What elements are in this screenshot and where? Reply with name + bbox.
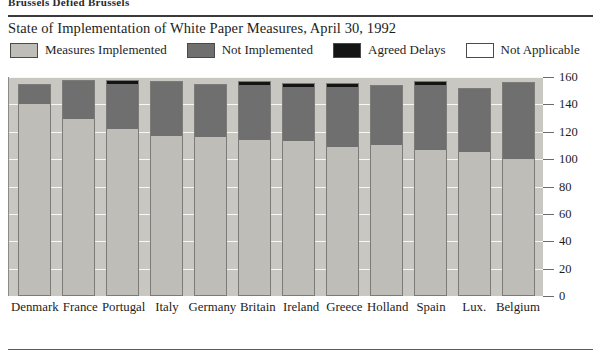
plot-area: [8, 77, 543, 296]
y-tick-label-20: 20: [559, 261, 572, 276]
bar-segment-not-implemented: [194, 84, 227, 137]
bar-belgium[interactable]: [502, 82, 535, 296]
bar-segment-measures-implemented: [370, 145, 403, 296]
bar-slot: [100, 77, 144, 296]
bar-segment-measures-implemented: [194, 137, 227, 296]
x-label-ireland: Ireland: [279, 300, 322, 322]
bar-segment-measures-implemented: [18, 104, 51, 296]
bar-segment-not-implemented: [370, 85, 403, 145]
page-title: State of Implementation of White Paper M…: [8, 20, 396, 37]
y-tick-label-40: 40: [559, 234, 572, 249]
x-label-holland: Holland: [366, 300, 409, 322]
bar-lux[interactable]: [458, 88, 491, 296]
bar-segment-not-implemented: [238, 85, 271, 140]
bar-ireland[interactable]: [282, 83, 315, 297]
x-axis-labels: DenmarkFrancePortugalItalyGermanyBritain…: [8, 300, 543, 322]
bar-slot: [320, 77, 364, 296]
x-label-italy: Italy: [145, 300, 188, 322]
y-tick-label-140: 140: [559, 97, 578, 112]
bar-denmark[interactable]: [18, 84, 51, 296]
bar-segment-measures-implemented: [502, 159, 535, 296]
bar-britain[interactable]: [238, 81, 271, 296]
bar-segment-not-implemented: [458, 88, 491, 152]
bar-greece[interactable]: [326, 83, 359, 297]
x-label-britain: Britain: [236, 300, 279, 322]
legend-item: Agreed Delays: [333, 42, 446, 58]
y-tick-label-60: 60: [559, 206, 572, 221]
y-tick-label-100: 100: [559, 152, 578, 167]
y-tick-100: [543, 159, 554, 160]
x-label-belgium: Belgium: [496, 300, 540, 322]
bar-segment-measures-implemented: [150, 136, 183, 296]
bar-italy[interactable]: [150, 81, 183, 296]
running-head: Brussels Defied Brussels: [8, 0, 308, 8]
bar-slot: [276, 77, 320, 296]
y-tick-label-0: 0: [559, 289, 565, 304]
bar-segment-not-implemented: [62, 80, 95, 120]
x-label-france: France: [59, 300, 102, 322]
x-label-portugal: Portugal: [102, 300, 145, 322]
bar-portugal[interactable]: [106, 80, 139, 296]
bar-slot: [452, 77, 496, 296]
bar-slot: [408, 77, 452, 296]
y-tick-20: [543, 269, 554, 270]
x-label-spain: Spain: [409, 300, 452, 322]
bar-segment-measures-implemented: [414, 150, 447, 296]
x-label-germany: Germany: [189, 300, 237, 322]
bar-segment-not-implemented: [502, 82, 535, 159]
chart-legend: Measures ImplementedNot ImplementedAgree…: [10, 40, 590, 60]
x-label-greece: Greece: [323, 300, 366, 322]
y-tick-label-80: 80: [559, 179, 572, 194]
bar-segment-not-implemented: [414, 85, 447, 149]
bar-germany[interactable]: [194, 84, 227, 296]
legend-swatch-not_implemented: [187, 43, 215, 58]
y-tick-80: [543, 187, 554, 188]
y-tick-120: [543, 132, 554, 133]
bar-france[interactable]: [62, 80, 95, 296]
y-tick-60: [543, 214, 554, 215]
chart-page: Brussels Defied Brussels State of Implem…: [0, 0, 601, 359]
bar-segment-measures-implemented: [62, 119, 95, 296]
bar-segment-measures-implemented: [106, 129, 139, 296]
bar-spain[interactable]: [414, 81, 447, 296]
bottom-rule: [8, 349, 593, 350]
legend-swatch-implemented: [10, 43, 38, 58]
bar-segment-not-implemented: [282, 87, 315, 142]
legend-label: Measures Implemented: [45, 42, 167, 58]
bar-slot: [364, 77, 408, 296]
legend-label: Agreed Delays: [368, 42, 446, 58]
y-tick-160: [543, 77, 554, 78]
bar-segment-measures-implemented: [282, 141, 315, 296]
bar-slot: [12, 77, 56, 296]
y-axis: 160140120100806040200: [543, 77, 601, 296]
bar-segment-not-implemented: [106, 84, 139, 129]
y-tick-40: [543, 241, 554, 242]
bar-segment-not-implemented: [150, 81, 183, 136]
legend-label: Not Applicable: [501, 42, 580, 58]
bar-segment-measures-implemented: [326, 147, 359, 296]
bar-segment-not-implemented: [326, 87, 359, 147]
gridline-0: [9, 296, 543, 297]
bar-slot: [188, 77, 232, 296]
top-rule: [8, 15, 593, 17]
legend-label: Not Implemented: [222, 42, 313, 58]
bar-slot: [144, 77, 188, 296]
bar-holland[interactable]: [370, 85, 403, 296]
y-tick-0: [543, 296, 554, 297]
bar-slot: [232, 77, 276, 296]
bar-segment-measures-implemented: [458, 152, 491, 296]
bar-segment-measures-implemented: [238, 140, 271, 296]
legend-item: Measures Implemented: [10, 42, 167, 58]
y-tick-label-160: 160: [559, 70, 578, 85]
bar-slot: [56, 77, 100, 296]
bar-group: [9, 77, 543, 296]
legend-item: Not Implemented: [187, 42, 313, 58]
x-label-lux: Lux.: [453, 300, 496, 322]
legend-item: Not Applicable: [466, 42, 580, 58]
legend-swatch-agreed_delays: [333, 43, 361, 58]
y-tick-140: [543, 104, 554, 105]
y-tick-label-120: 120: [559, 124, 578, 139]
bar-slot: [496, 77, 540, 296]
x-label-denmark: Denmark: [11, 300, 59, 322]
legend-swatch-not_applicable: [466, 43, 494, 58]
